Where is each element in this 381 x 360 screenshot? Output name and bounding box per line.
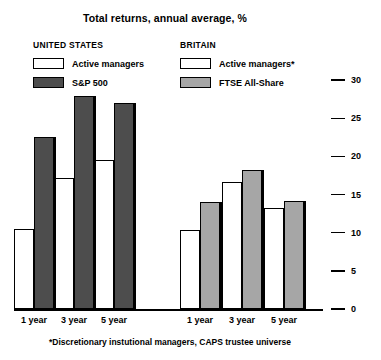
- bar-united-states-s-p-500-1-year: [34, 137, 54, 309]
- y-axis-tick-30: 30: [331, 74, 361, 86]
- y-axis-tick-10: 10: [331, 227, 361, 239]
- bar-britain-active-managers--1-year: [180, 230, 200, 309]
- bar-britain-active-managers--3-year: [222, 182, 242, 309]
- y-axis-tick-label: 25: [351, 113, 361, 123]
- bar-united-states-active-managers-3-year: [54, 178, 74, 309]
- y-axis-tick-mark: [331, 194, 345, 195]
- y-axis-tick-mark: [331, 308, 345, 309]
- x-axis-label-britain-5-year: 5 year: [258, 315, 310, 325]
- y-axis-tick-5: 5: [331, 265, 356, 277]
- bar-united-states-s-p-500-5-year: [114, 103, 134, 309]
- y-axis-tick-mark: [331, 232, 345, 233]
- y-axis-tick-label: 15: [351, 190, 361, 200]
- y-axis-tick-label: 10: [351, 228, 361, 238]
- plot-area: 302520151050 1 year3 year5 year1 year3 y…: [0, 0, 381, 360]
- y-axis-tick-mark: [331, 270, 345, 271]
- y-axis-tick-mark: [331, 79, 345, 80]
- x-axis-label-united-states-5-year: 5 year: [88, 315, 140, 325]
- y-axis-tick-15: 15: [331, 189, 361, 201]
- bar-united-states-active-managers-5-year: [94, 160, 114, 310]
- chart-footnote: *Discretionary instutional managers, CAP…: [0, 337, 340, 347]
- y-axis-tick-mark: [331, 156, 345, 157]
- y-axis-tick-label: 0: [351, 304, 356, 314]
- bar-britain-active-managers--5-year: [264, 208, 284, 309]
- x-axis-baseline: [14, 309, 323, 311]
- y-axis-tick-20: 20: [331, 150, 361, 162]
- bar-britain-ftse-all-share-5-year: [284, 201, 304, 309]
- bar-united-states-s-p-500-3-year: [74, 96, 94, 309]
- bar-britain-ftse-all-share-3-year: [242, 170, 262, 309]
- y-axis-tick-mark: [331, 118, 345, 119]
- bar-united-states-active-managers-1-year: [14, 229, 34, 309]
- y-axis-tick-label: 20: [351, 151, 361, 161]
- y-axis-tick-0: 0: [331, 303, 356, 315]
- y-axis-tick-label: 5: [351, 266, 356, 276]
- chart-figure: Total returns, annual average, % UNITED …: [0, 0, 381, 360]
- bar-britain-ftse-all-share-1-year: [200, 202, 220, 309]
- y-axis-tick-label: 30: [351, 75, 361, 85]
- y-axis-tick-25: 25: [331, 112, 361, 124]
